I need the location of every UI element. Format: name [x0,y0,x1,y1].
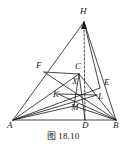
segment-AM [13,106,74,120]
vertex-label-M: M [71,103,79,112]
geometry-figure: A B D H C F E K L X M 图 18.10 [0,0,126,150]
vertex-label-K: K [53,90,59,99]
segment-FC [44,72,79,74]
segment-AC [13,74,79,120]
segment-MB [74,106,116,120]
vertex-label-B: B [113,121,119,130]
segment-HE [84,22,100,88]
vertex-label-H: H [80,7,87,16]
vertex-label-A: A [7,121,13,130]
segments-layer [13,22,116,120]
vertex-label-E: E [104,78,110,87]
vertex-label-C: C [75,62,81,71]
vertex-label-F: F [36,61,42,70]
geometry-drawing [0,0,126,150]
vertex-label-D: D [82,121,89,130]
vertex-label-X: X [72,77,78,86]
side-BH [84,22,116,120]
segment-KL [58,94,97,95]
vertex-label-L: L [98,92,103,101]
figure-caption: 图 18.10 [0,131,126,142]
